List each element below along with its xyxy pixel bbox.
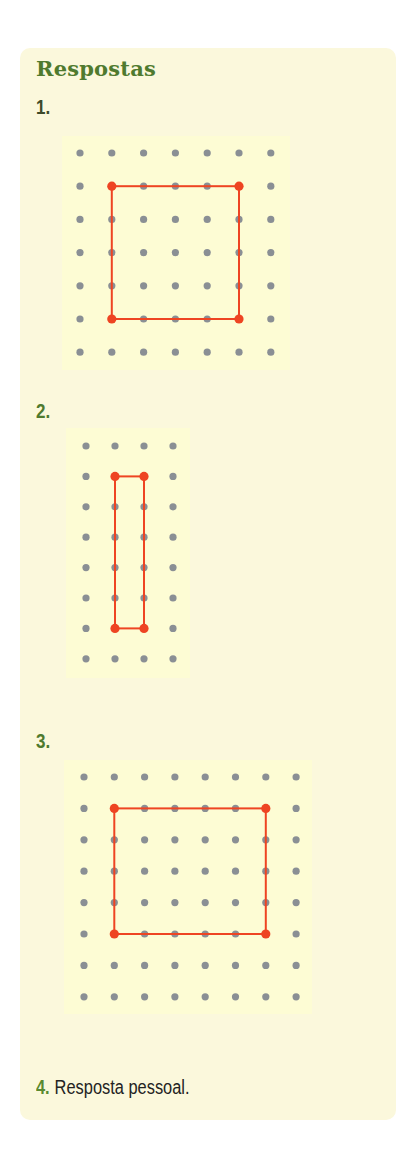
item-4-answer: 4.Resposta pessoal. bbox=[36, 1076, 190, 1099]
item-4-text: Resposta pessoal. bbox=[55, 1076, 190, 1098]
dot-grid-3-rectangle-figure bbox=[0, 0, 416, 1171]
item-4-number: 4. bbox=[36, 1076, 50, 1098]
